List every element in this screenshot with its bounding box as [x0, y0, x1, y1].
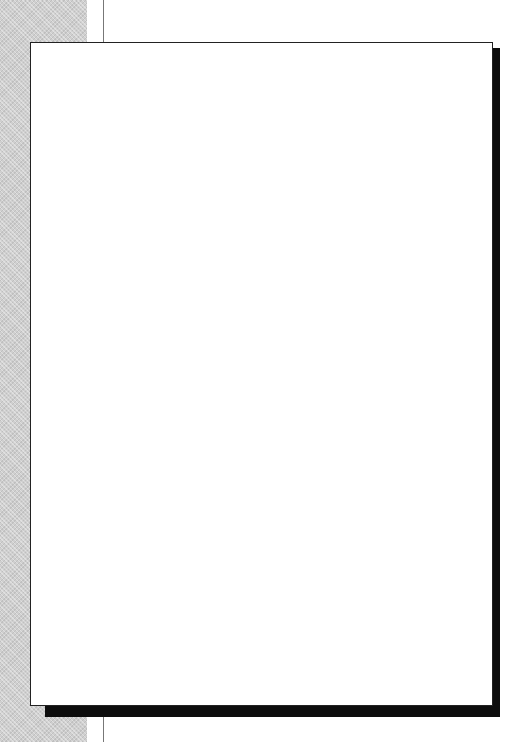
flowchart-diagram	[0, 0, 525, 742]
